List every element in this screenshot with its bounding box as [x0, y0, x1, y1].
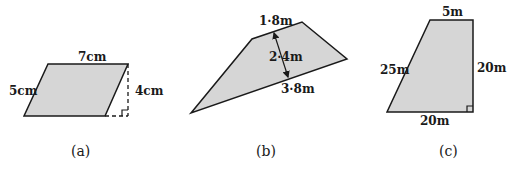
- caption-b: (b): [256, 143, 276, 159]
- label-height: 2·4m: [269, 50, 303, 64]
- label-slant: 25m: [380, 63, 410, 77]
- label-top: 7cm: [78, 50, 107, 64]
- figure-c: 5m 25m 20m 20m (c): [380, 5, 507, 159]
- right-angle-icon: [122, 110, 128, 116]
- label-bottom: 3·8m: [281, 82, 315, 96]
- caption-c: (c): [439, 143, 458, 159]
- label-right: 20m: [477, 61, 507, 75]
- label-top: 1·8m: [259, 14, 293, 28]
- figure-b: 1·8m 2·4m 3·8m (b): [191, 14, 347, 159]
- diagram-canvas: 7cm 5cm 4cm (a) 1·8m 2·4m 3·8m (b) 5m 25…: [0, 0, 509, 174]
- trapezium-shape: [191, 22, 347, 113]
- label-top: 5m: [442, 5, 463, 19]
- caption-a: (a): [71, 143, 90, 159]
- label-side: 5cm: [9, 84, 38, 98]
- figure-a: 7cm 5cm 4cm (a): [9, 50, 164, 159]
- parallelogram-shape: [24, 64, 128, 116]
- label-bottom: 20m: [420, 114, 450, 128]
- label-height: 4cm: [135, 84, 164, 98]
